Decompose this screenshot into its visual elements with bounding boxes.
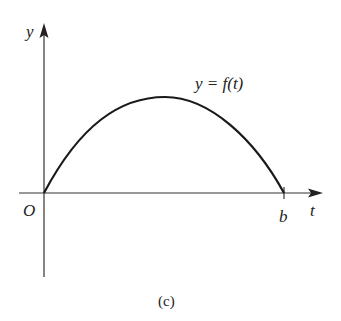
origin-label: O — [23, 201, 35, 220]
curve-f-of-t — [44, 97, 284, 193]
figure-caption: (c) — [158, 293, 175, 310]
b-label: b — [279, 207, 288, 226]
y-axis-label: y — [24, 22, 34, 41]
t-axis-label: t — [310, 201, 316, 220]
function-graph: y O b t y = f(t) (c) — [0, 0, 341, 321]
curve-label: y = f(t) — [193, 74, 244, 93]
